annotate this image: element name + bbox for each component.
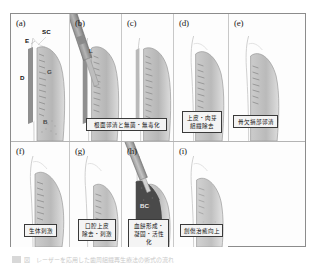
label-blood-clot: BC	[140, 202, 149, 209]
panel-c-tag: (c)	[127, 18, 136, 28]
panel-a: (a) E SC D G B	[11, 14, 69, 141]
panel-g: (g) 口腔上皮 除去・刺激	[69, 142, 121, 247]
panel-b-tag: (b)	[75, 18, 85, 28]
panel-a-tag: (a)	[16, 18, 25, 28]
panel-i-tag: (i)	[179, 146, 187, 156]
panel-f-tag: (f)	[16, 146, 24, 156]
panel-i-caption: 創傷治癒向上	[180, 224, 223, 237]
panel-h: (h) BC 血餅形成・ 凝固・活性化	[121, 142, 173, 247]
figure-bottom-caption: 図 レーザーを応用した歯周組織再生療法の術式の流れ	[12, 256, 308, 268]
label-dentin: D	[20, 74, 24, 81]
panel-d-tag: (d)	[179, 18, 189, 28]
figure-container: (a) E SC D G B	[0, 0, 317, 273]
panel-e: (e) 骨欠損部郭清	[228, 14, 282, 141]
caption-marker	[12, 256, 21, 263]
label-granulation: G	[47, 68, 52, 75]
label-enamel: E	[25, 37, 29, 44]
caption-text: 図 レーザーを応用した歯周組織再生療法の術式の流れ	[24, 256, 174, 263]
panel-h-caption: 血餅形成・ 凝固・活性化	[128, 219, 169, 247]
panel-d-caption: 上皮・肉芽 組織除去	[182, 111, 222, 133]
panel-f: (f) 生体刺激	[11, 142, 69, 247]
label-laser: L	[89, 47, 93, 54]
panel-e-caption: 骨欠損部郭清	[233, 115, 278, 128]
panel-h-tag: (h)	[127, 146, 137, 156]
panel-g-tag: (g)	[75, 146, 85, 156]
panel-d: (d) 上皮・肉芽 組織除去	[173, 14, 228, 141]
label-sulcular-crevice: SC	[42, 28, 51, 35]
panel-f-caption: 生体刺激	[24, 224, 57, 237]
panel-i: (i) 創傷治癒向上	[173, 142, 228, 247]
panel-g-caption: 口腔上皮 除去・刺激	[78, 219, 116, 241]
panel-b-caption: 根面郭清と無菌・無毒化	[86, 118, 167, 131]
panel-e-tag: (e)	[234, 18, 243, 28]
label-bone: B	[43, 118, 47, 125]
